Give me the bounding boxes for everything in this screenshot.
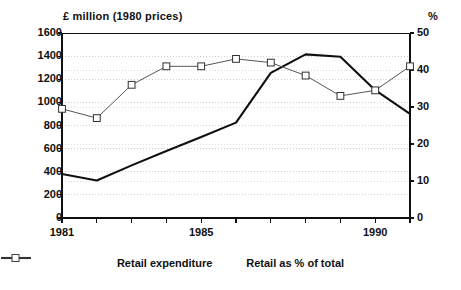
- plot-area: [0, 0, 461, 290]
- right-axis-tick-label: 30: [417, 101, 457, 112]
- right-axis-tick-label: 20: [417, 138, 457, 149]
- chart-legend: Retail expenditure Retail as % of total: [0, 252, 461, 274]
- legend-label: Retail expenditure: [117, 257, 212, 269]
- x-axis-tick-label: 1981: [32, 227, 92, 238]
- right-axis-tick-label: 50: [417, 27, 457, 38]
- right-axis-tick-label: 40: [417, 64, 457, 75]
- legend-label: Retail as % of total: [246, 257, 344, 269]
- left-axis-tick-label: 1200: [2, 73, 62, 84]
- left-axis-tick-label: 800: [2, 120, 62, 131]
- left-axis-tick-label: 1000: [2, 96, 62, 107]
- legend-marker-line-with-square: [0, 252, 32, 264]
- left-axis-tick-label: 0: [2, 212, 62, 223]
- left-axis-tick-label: 1600: [2, 27, 62, 38]
- legend-item-retail-percent: Retail as % of total: [246, 257, 344, 269]
- chart-container: £ million (1980 prices) % 02004006008001…: [0, 0, 461, 290]
- left-axis-tick-label: 600: [2, 143, 62, 154]
- left-axis-tick-label: 1400: [2, 50, 62, 61]
- left-axis-tick-label: 400: [2, 166, 62, 177]
- x-axis-tick-label: 1985: [171, 227, 231, 238]
- right-axis-tick-label: 0: [417, 212, 457, 223]
- left-axis-tick-label: 200: [2, 189, 62, 200]
- x-axis-tick-label: 1990: [345, 227, 405, 238]
- right-axis-tick-label: 10: [417, 175, 457, 186]
- legend-item-retail-expenditure: Retail expenditure: [117, 257, 212, 269]
